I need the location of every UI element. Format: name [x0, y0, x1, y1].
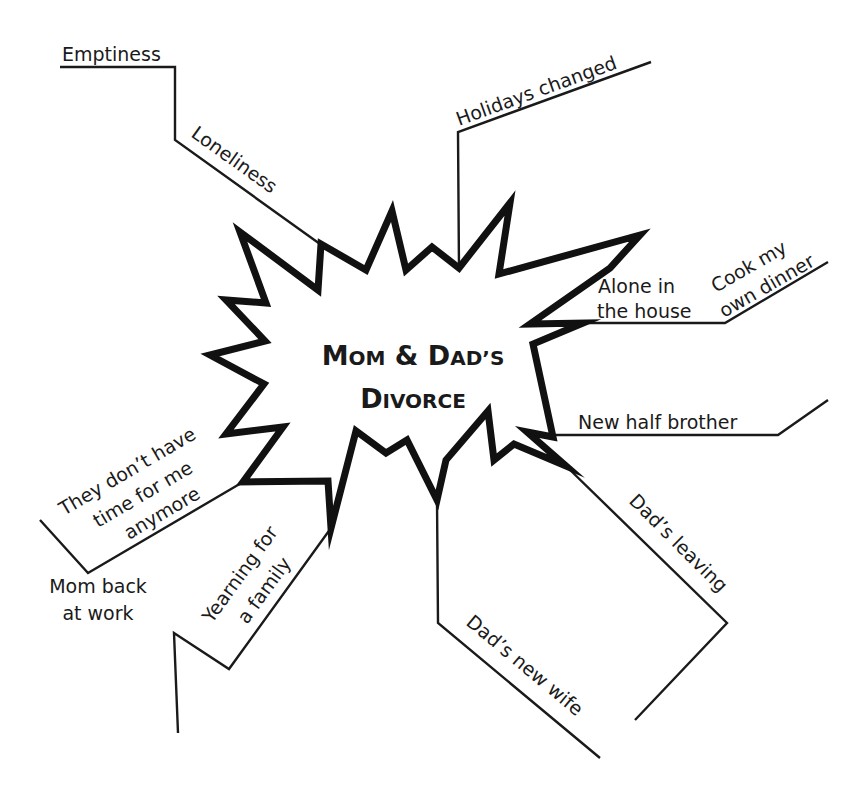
branch-line-loneliness — [60, 67, 320, 244]
mind-map-canvas: MOM & DAD’S DIVORCE Emptiness Loneliness… — [0, 0, 865, 796]
label-emptiness: Emptiness — [62, 43, 161, 65]
label-alone-in-line2: the house — [597, 300, 692, 322]
label-mom-back-line1: Mom back — [49, 575, 147, 597]
label-dads-new-wife: Dad’s new wife — [462, 610, 587, 720]
label-dads-leaving: Dad’s leaving — [625, 489, 732, 596]
label-holidays-changed: Holidays changed — [453, 51, 620, 130]
label-alone-in-line1: Alone in — [598, 275, 675, 297]
branch-line-dads-new-wife — [437, 500, 600, 758]
label-new-half-brother: New half brother — [578, 411, 737, 433]
label-mom-back-line2: at work — [62, 602, 133, 624]
